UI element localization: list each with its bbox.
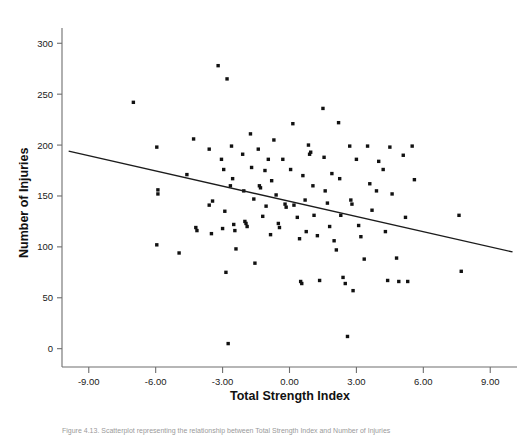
- data-point: [230, 144, 233, 147]
- data-point: [381, 168, 384, 171]
- data-point: [311, 184, 314, 187]
- data-point: [269, 233, 272, 236]
- data-point: [231, 177, 234, 180]
- data-point: [234, 247, 237, 250]
- figure-caption: Figure 4.13. Scatterplot representing th…: [62, 427, 391, 435]
- data-point: [270, 179, 273, 182]
- scatter-plot-svg: Number of Injuries 050100150200250300 -9…: [0, 0, 530, 436]
- data-point: [274, 193, 277, 196]
- data-point: [156, 188, 159, 191]
- data-point: [223, 210, 226, 213]
- data-point: [386, 279, 389, 282]
- data-point: [300, 282, 303, 285]
- data-point: [208, 203, 211, 206]
- data-point: [406, 280, 409, 283]
- data-point: [155, 243, 158, 246]
- data-point: [375, 189, 378, 192]
- data-point: [410, 144, 413, 147]
- data-point: [259, 186, 262, 189]
- data-point: [307, 143, 310, 146]
- data-point: [351, 289, 354, 292]
- data-point: [272, 138, 275, 141]
- data-point: [357, 224, 360, 227]
- data-point: [350, 202, 353, 205]
- data-point: [349, 198, 352, 201]
- data-point: [284, 205, 287, 208]
- data-point: [384, 230, 387, 233]
- data-point: [335, 248, 338, 251]
- data-point: [291, 122, 294, 125]
- data-point: [296, 216, 299, 219]
- data-point: [388, 145, 391, 148]
- data-point: [185, 173, 188, 176]
- data-point: [346, 335, 349, 338]
- data-point: [390, 192, 393, 195]
- data-point: [211, 199, 214, 202]
- data-point: [250, 166, 253, 169]
- data-point: [395, 256, 398, 259]
- data-point: [281, 158, 284, 161]
- data-point: [225, 77, 228, 80]
- data-point: [263, 169, 266, 172]
- data-point: [292, 203, 295, 206]
- data-point: [355, 158, 358, 161]
- data-point: [222, 168, 225, 171]
- data-point: [210, 232, 213, 235]
- data-point: [309, 150, 312, 153]
- data-point: [283, 202, 286, 205]
- data-point: [344, 282, 347, 285]
- data-point: [338, 177, 341, 180]
- y-tick-label: 100: [37, 241, 53, 252]
- data-point: [249, 132, 252, 135]
- y-tick-label: 150: [37, 190, 53, 201]
- x-tick-label: 9.00: [481, 376, 500, 387]
- y-axis-title-text: Number of Injuries: [17, 148, 31, 258]
- data-point: [245, 225, 248, 228]
- data-point: [289, 168, 292, 171]
- data-point: [261, 215, 264, 218]
- data-point: [232, 223, 235, 226]
- data-point: [305, 230, 308, 233]
- data-point: [241, 153, 244, 156]
- data-point: [216, 64, 219, 67]
- data-point: [368, 182, 371, 185]
- x-tick-label: 6.00: [414, 376, 433, 387]
- data-point: [252, 197, 255, 200]
- data-point: [298, 237, 301, 240]
- x-tick-label: -9.00: [78, 376, 100, 387]
- data-point: [264, 204, 267, 207]
- data-point: [221, 227, 224, 230]
- x-axis-title-text: Total Strength Index: [230, 389, 350, 403]
- data-point: [267, 158, 270, 161]
- y-tick-label: 250: [37, 89, 53, 100]
- y-tick-label: 50: [42, 292, 53, 303]
- x-tick-label: 0.00: [280, 376, 299, 387]
- data-point: [337, 121, 340, 124]
- data-point: [220, 158, 223, 161]
- data-point: [192, 137, 195, 140]
- data-point: [195, 229, 198, 232]
- data-point: [316, 234, 319, 237]
- data-point: [404, 216, 407, 219]
- x-tick-label: -3.00: [212, 376, 234, 387]
- data-point: [341, 276, 344, 279]
- data-point: [457, 214, 460, 217]
- data-point: [363, 257, 366, 260]
- data-point: [156, 192, 159, 195]
- data-point: [397, 280, 400, 283]
- data-point: [301, 174, 304, 177]
- y-tick-label: 300: [37, 38, 53, 49]
- data-point: [326, 201, 329, 204]
- data-point: [253, 261, 256, 264]
- y-tick-label: 0: [48, 343, 53, 354]
- plot-background: [0, 0, 530, 436]
- data-point: [332, 239, 335, 242]
- y-axis-title: Number of Injuries: [17, 148, 31, 258]
- data-point: [277, 222, 280, 225]
- data-point: [321, 107, 324, 110]
- data-point: [323, 189, 326, 192]
- x-tick-label: 3.00: [347, 376, 366, 387]
- data-point: [278, 226, 281, 229]
- data-point: [322, 156, 325, 159]
- data-point: [226, 342, 229, 345]
